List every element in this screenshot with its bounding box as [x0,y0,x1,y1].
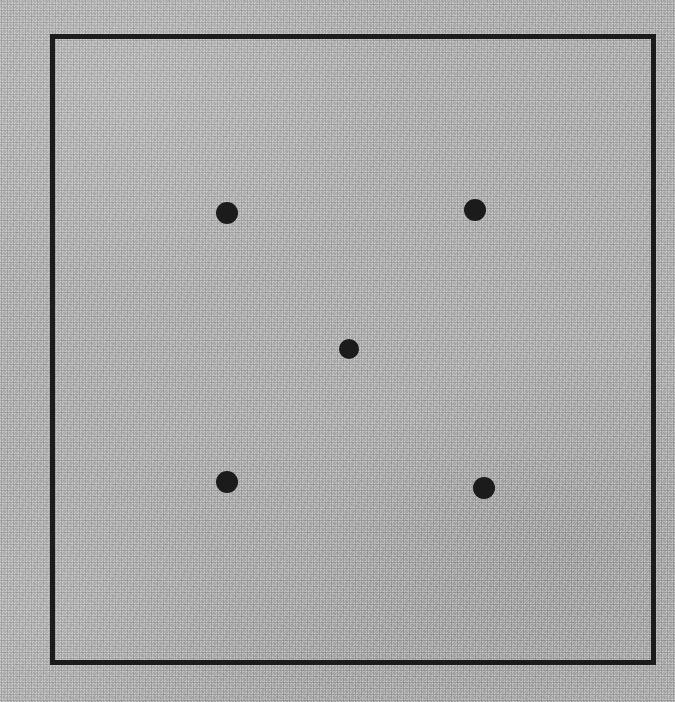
dot-group [216,199,495,499]
dot-top-right [464,199,486,221]
figure-vector-layer [0,0,675,702]
dot-bottom-right [473,477,495,499]
dot-bottom-left [216,471,238,493]
scanned-figure-canvas [0,0,675,702]
dot-top-left [216,202,238,224]
dot-center [339,339,359,359]
